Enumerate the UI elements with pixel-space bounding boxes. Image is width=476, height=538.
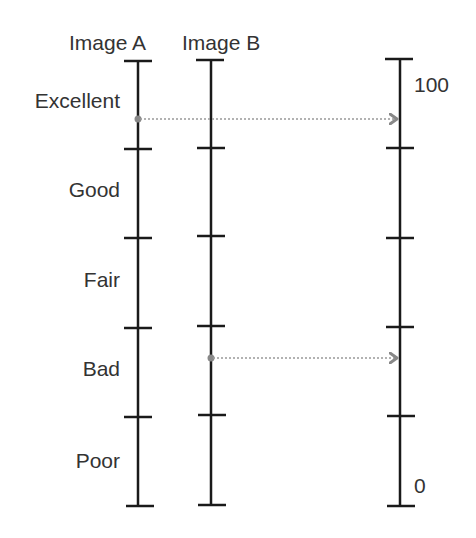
image-a-axis: [124, 60, 154, 506]
category-fair: Fair: [0, 268, 120, 292]
image-b-axis: [196, 60, 226, 505]
image-b-header: Image B: [182, 31, 260, 55]
mapping-arrow-bad: [208, 355, 398, 362]
image-a-header: Image A: [69, 31, 146, 55]
continuous-scale-axis: [385, 59, 415, 506]
mapping-arrow-excellent: [135, 116, 398, 123]
category-poor: Poor: [0, 449, 120, 473]
category-bad: Bad: [0, 357, 120, 381]
scale-min-label: 0: [414, 474, 426, 498]
category-good: Good: [0, 178, 120, 202]
category-excellent: Excellent: [0, 89, 120, 113]
scale-max-label: 100: [414, 73, 449, 97]
